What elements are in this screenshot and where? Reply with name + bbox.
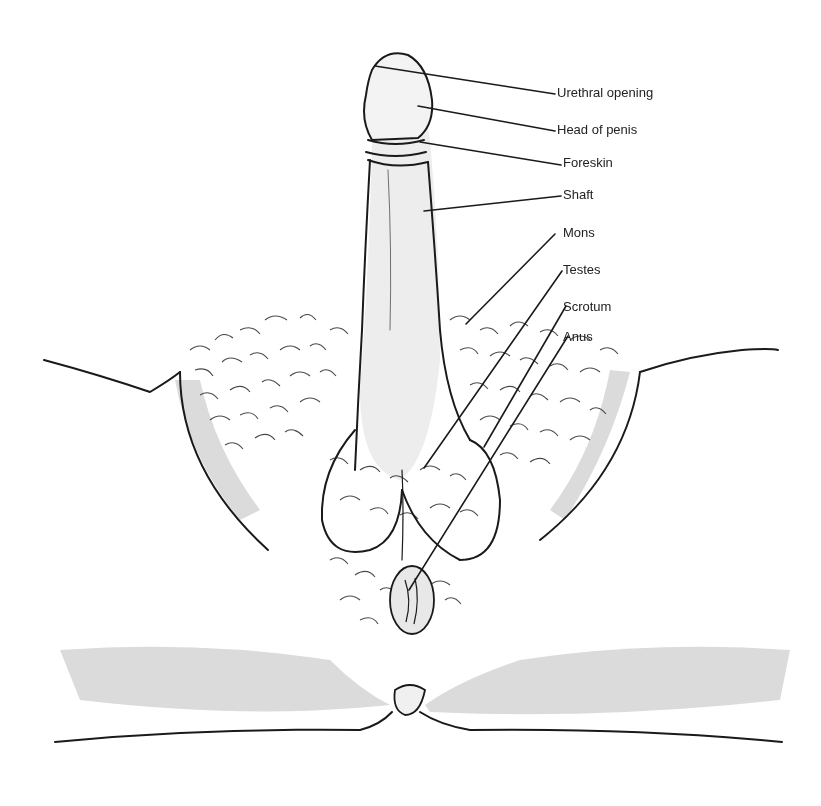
glans bbox=[364, 53, 432, 140]
label-anus: Anus bbox=[563, 329, 593, 344]
label-foreskin: Foreskin bbox=[563, 155, 613, 170]
leader-line-mons bbox=[466, 234, 555, 324]
label-head-of-penis: Head of penis bbox=[557, 122, 637, 137]
anatomy-illustration bbox=[0, 0, 821, 806]
leader-line-shaft bbox=[424, 196, 561, 211]
leader-line-head-of-penis bbox=[418, 106, 555, 131]
label-testes: Testes bbox=[563, 262, 601, 277]
leader-line-foreskin bbox=[420, 142, 561, 165]
label-mons: Mons bbox=[563, 225, 595, 240]
label-shaft: Shaft bbox=[563, 187, 593, 202]
label-urethral-opening: Urethral opening bbox=[557, 85, 653, 100]
label-scrotum: Scrotum bbox=[563, 299, 611, 314]
anus-drawing bbox=[390, 566, 434, 715]
